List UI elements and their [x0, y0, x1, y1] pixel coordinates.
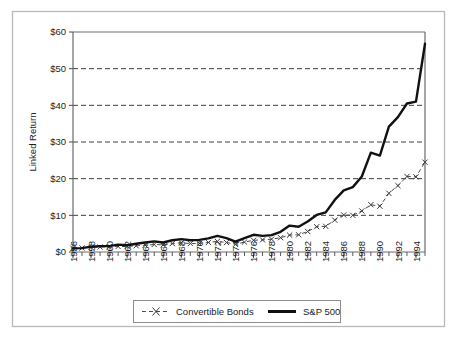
chart-background [0, 0, 456, 341]
y-tick-label-20: $20 [50, 173, 66, 184]
x-tick-label-1984: 1984 [320, 241, 331, 262]
x-tick-label-1956: 1956 [68, 241, 79, 262]
legend: Convertible Bonds S&P 500 [134, 301, 341, 323]
x-tick-label-1976: 1976 [248, 241, 259, 262]
x-tick-label-1972: 1972 [212, 241, 223, 262]
x-tick-label-1960: 1960 [104, 241, 115, 262]
x-tick-label-1958: 1958 [86, 241, 97, 262]
chart-figure: $0$10$20$30$40$50$60 1956195819601962196… [0, 0, 456, 341]
y-tick-label-10: $10 [50, 210, 66, 221]
x-tick-label-1982: 1982 [302, 241, 313, 262]
legend-label-sp500: S&P 500 [303, 306, 340, 317]
legend-label-convertible-bonds: Convertible Bonds [176, 306, 254, 317]
x-tick-label-1994: 1994 [411, 241, 422, 262]
legend-item-convertible-bonds[interactable]: Convertible Bonds [142, 306, 254, 317]
x-tick-label-1986: 1986 [338, 241, 349, 262]
x-tick-label-1980: 1980 [284, 241, 295, 262]
y-tick-label-0: $0 [55, 246, 66, 257]
x-tick-label-1978: 1978 [266, 241, 277, 262]
x-tick-label-1990: 1990 [374, 241, 385, 262]
x-tick-label-1992: 1992 [393, 241, 404, 262]
x-tick-label-1988: 1988 [356, 241, 367, 262]
y-tick-label-60: $60 [50, 26, 66, 37]
y-tick-label-40: $40 [50, 100, 66, 111]
y-tick-label-50: $50 [50, 63, 66, 74]
x-tick-label-1968: 1968 [176, 241, 187, 262]
y-axis-title: Linked Return [27, 112, 38, 171]
y-tick-label-30: $30 [50, 136, 66, 147]
linked-return-line-chart: $0$10$20$30$40$50$60 1956195819601962196… [0, 0, 456, 341]
